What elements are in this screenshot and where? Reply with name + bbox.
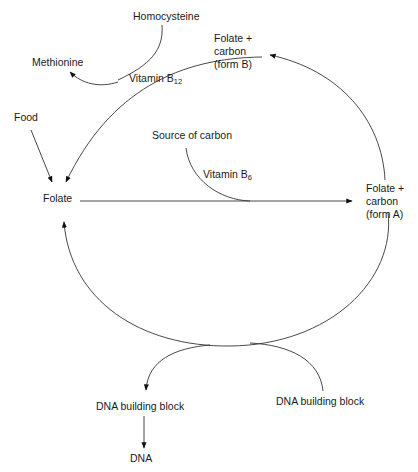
folate-carbon-a-label: Folate + carbon (form A) (366, 182, 407, 220)
folate-carbon-b-line-3: (form B) (214, 58, 252, 70)
folate-label: Folate (43, 192, 72, 204)
folate-carbon-b-line-1: Folate + (214, 32, 252, 44)
folate-carbon-b-line-2: carbon (214, 45, 246, 57)
folate-cycle-diagram: Homocysteine Methionine Vitamin B12 Fola… (0, 0, 418, 472)
dna-block-left-arrow (146, 345, 210, 390)
source-of-carbon-label: Source of carbon (152, 129, 232, 141)
dna-building-block-left-label: DNA building block (96, 400, 185, 412)
vitamin-b12-subscript: 12 (174, 77, 182, 86)
folate-carbon-a-line-1: Folate + (366, 182, 404, 194)
vitamin-b6-subscript: 6 (248, 173, 252, 182)
vitamin-b6-label: Vitamin B6 (203, 168, 252, 182)
food-label: Food (14, 111, 38, 123)
vitamin-b12-label: Vitamin B12 (129, 72, 182, 86)
dna-building-block-right-label: DNA building block (276, 395, 365, 407)
form-a-to-folate-bottom-arc (64, 212, 389, 346)
food-arrow (31, 130, 52, 182)
form-a-to-form-b-arrow (270, 55, 385, 180)
folate-carbon-a-line-3: (form A) (366, 208, 403, 220)
dna-block-right-curve (250, 343, 323, 391)
methionine-label: Methionine (32, 56, 84, 68)
dna-label: DNA (130, 452, 152, 464)
vitamin-b6-base: Vitamin B (203, 168, 248, 180)
methionine-arrow (70, 72, 118, 85)
folate-carbon-a-line-2: carbon (366, 195, 398, 207)
homocysteine-label: Homocysteine (133, 10, 200, 22)
vitamin-b12-base: Vitamin B (129, 72, 174, 84)
folate-carbon-b-label: Folate + carbon (form B) (214, 32, 255, 70)
